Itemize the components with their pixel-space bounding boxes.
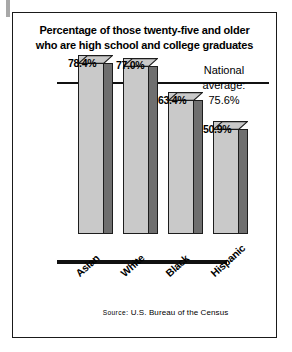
source-note: Source: U.S. Bureau of the Census xyxy=(13,308,276,317)
bar-asian-front xyxy=(78,55,104,234)
value-label-hispanic: 50.9% xyxy=(203,123,231,135)
bar-black-side xyxy=(194,100,203,234)
source-prefix: Source xyxy=(103,309,126,316)
value-label-black: 63.4% xyxy=(158,94,186,106)
source-text: : U.S. Bureau of the Census xyxy=(126,308,228,317)
category-label-black: Black xyxy=(163,252,191,279)
category-label-asian: Asian xyxy=(73,252,102,279)
bar-hispanic-front xyxy=(213,121,239,234)
chart-frame: Percentage of those twenty-five and olde… xyxy=(12,12,277,338)
value-label-asian: 78.4% xyxy=(68,57,96,69)
page-edge-mark xyxy=(6,0,10,17)
bar-white-front xyxy=(123,58,149,234)
national-average-label-line-1: National xyxy=(182,63,266,78)
value-label-white: 77.0% xyxy=(116,59,144,71)
bar-asian-side xyxy=(104,63,113,234)
bar-black-front xyxy=(168,92,194,234)
bar-hispanic-side xyxy=(239,129,248,234)
bar-white-side xyxy=(149,66,158,234)
plot-area: National average: 75.6% xyxy=(13,13,276,337)
category-label-white: White xyxy=(118,252,147,279)
